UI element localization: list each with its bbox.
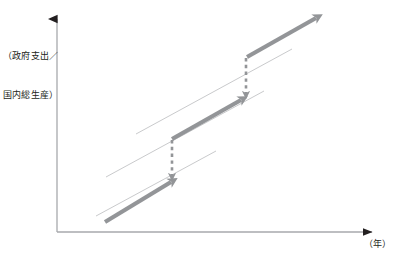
segment-2-arrow [172,100,241,139]
segment-3-arrow [247,18,316,57]
trend-line-lower [96,151,216,216]
y-axis-label: （政府支出／ 国内総生産） [3,24,58,128]
y-axis-label-line2: 国内総生産） [3,89,58,102]
trend-line-upper [136,49,292,134]
segment-1-arrow [105,182,171,222]
y-axis-label-line1: （政府支出／ [3,50,58,63]
x-axis-label: （年） [364,238,392,251]
diagram-canvas [0,0,410,254]
trend-lines-group [96,49,292,216]
figure-container: （政府支出／ 国内総生産） （年） [0,0,410,254]
axes-group [57,19,372,232]
